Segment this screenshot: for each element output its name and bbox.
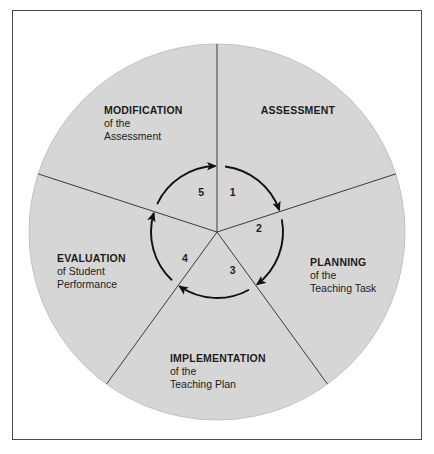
sector-title: IMPLEMENTATION	[170, 352, 266, 365]
step-number-4: 4	[177, 252, 193, 264]
sector-title: MODIFICATION	[104, 104, 183, 117]
sector-title: PLANNING	[310, 256, 376, 269]
sector-label-implementation: IMPLEMENTATIONof theTeaching Plan	[170, 352, 266, 390]
sector-label-modification: MODIFICATIONof theAssessment	[104, 104, 183, 142]
sector-subtitle-line: of the	[310, 269, 376, 282]
sector-subtitle-line: of the	[170, 365, 266, 378]
sector-subtitle-line: Teaching Task	[310, 282, 376, 295]
sector-subtitle-line: Performance	[57, 278, 126, 291]
step-number-3: 3	[225, 264, 241, 276]
sector-label-evaluation: EVALUATIONof StudentPerformance	[57, 252, 126, 290]
figure-root: ASSESSMENTPLANNINGof theTeaching TaskIMP…	[0, 0, 434, 454]
sector-label-planning: PLANNINGof theTeaching Task	[310, 256, 376, 294]
sector-title: EVALUATION	[57, 252, 126, 265]
sector-title: ASSESSMENT	[261, 104, 335, 117]
sector-label-assessment: ASSESSMENT	[261, 104, 335, 117]
step-number-2: 2	[251, 222, 267, 234]
sector-subtitle-line: of Student	[57, 265, 126, 278]
sector-subtitle-line: Teaching Plan	[170, 378, 266, 391]
sector-subtitle-line: of the	[104, 117, 183, 130]
step-number-1: 1	[225, 186, 241, 198]
sector-subtitle-line: Assessment	[104, 130, 183, 143]
step-number-5: 5	[193, 186, 209, 198]
